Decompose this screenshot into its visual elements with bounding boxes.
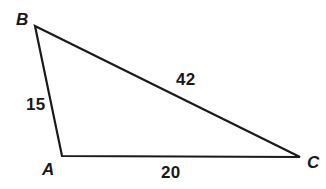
triangle-outline bbox=[35, 26, 300, 157]
vertex-label-b: B bbox=[16, 11, 28, 28]
triangle-figure: B A C 15 42 20 bbox=[0, 0, 326, 189]
side-length-label-ab: 15 bbox=[26, 96, 46, 113]
vertex-label-c: C bbox=[307, 154, 319, 171]
side-length-label-bc: 42 bbox=[176, 71, 196, 88]
side-length-label-ac: 20 bbox=[161, 164, 181, 181]
vertex-label-a: A bbox=[42, 161, 54, 178]
